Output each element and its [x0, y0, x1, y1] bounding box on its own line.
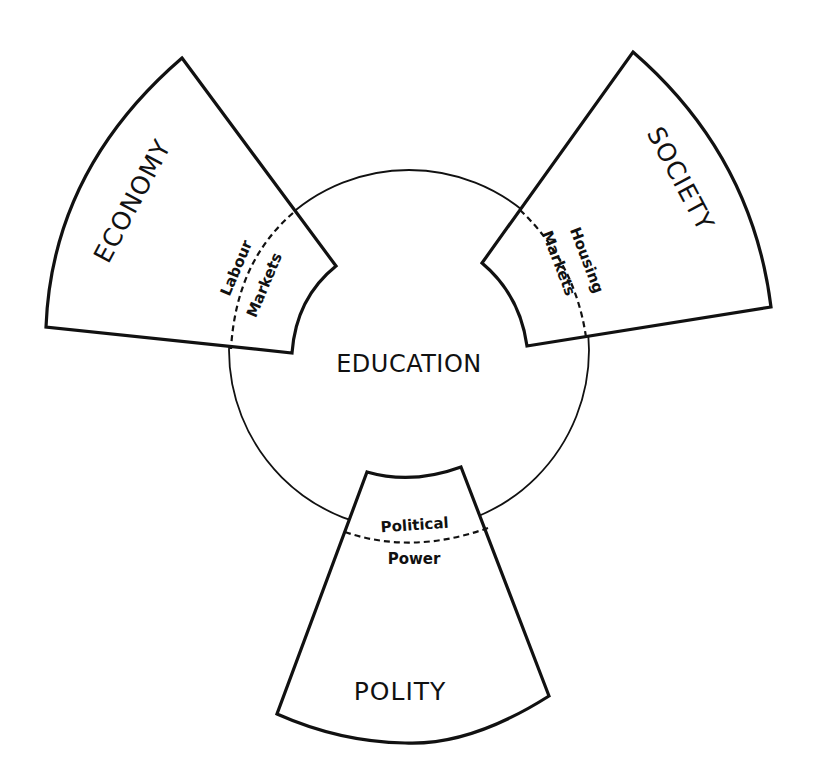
polity-label: POLITY	[354, 677, 447, 706]
power-label: Power	[388, 550, 441, 568]
society-sector	[482, 52, 771, 346]
economy-sector	[46, 58, 336, 353]
education-label: EDUCATION	[336, 350, 482, 378]
education-interfaces-diagram: EDUCATION ECONOMY SOCIETY POLITY Labour …	[0, 0, 813, 781]
